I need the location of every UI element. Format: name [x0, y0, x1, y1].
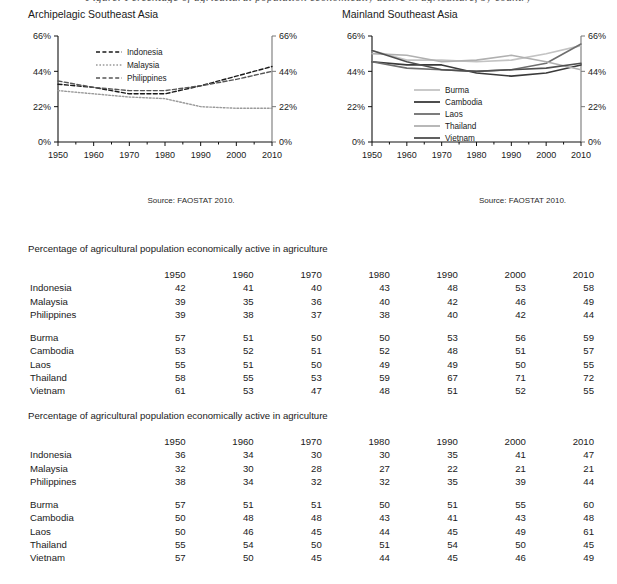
cell-burma-1980: 50 [336, 498, 404, 511]
cell-laos-1980: 49 [336, 358, 404, 371]
cell-indonesia-2010: 58 [540, 281, 608, 294]
cell-malaysia-2010: 49 [540, 295, 608, 308]
series-line-cambodia [372, 62, 581, 76]
x-tick-label-1980: 1980 [466, 150, 486, 160]
column-header-1990: 1990 [404, 268, 472, 281]
cell-laos-1990: 49 [404, 358, 472, 371]
cell-indonesia-1950: 42 [132, 281, 200, 294]
cell-laos-1950: 55 [132, 358, 200, 371]
table-row: Vietnam61534748515255 [28, 384, 608, 397]
column-header-2000: 2000 [472, 268, 540, 281]
column-header-2010: 2010 [540, 268, 608, 281]
table-row: Cambodia53525152485157 [28, 344, 608, 357]
cell-laos-2010: 61 [540, 525, 608, 538]
cell-vietnam-2010: 49 [540, 551, 608, 564]
cell-malaysia-2000: 46 [472, 295, 540, 308]
y-tick-label-right-0: 0% [588, 137, 601, 147]
running-head-text: Figure: Percentage of agricultural popul… [0, 0, 617, 3]
table-row: Malaysia39353640424649 [28, 295, 608, 308]
cell-cambodia-2010: 57 [540, 344, 608, 357]
page-running-head: Figure: Percentage of agricultural popul… [0, 0, 617, 3]
row-label-laos: Laos [28, 358, 132, 371]
cell-laos-1960: 46 [200, 525, 268, 538]
cell-vietnam-1970: 45 [268, 551, 336, 564]
table-corner-cell [28, 268, 132, 281]
cell-laos-1950: 50 [132, 525, 200, 538]
chart-title-archipelagic: Archipelagic Southeast Asia [28, 8, 308, 20]
table-header-row: 1950196019701980199020002010 [28, 435, 608, 448]
cell-vietnam-1990: 51 [404, 384, 472, 397]
cell-philippines-1990: 35 [404, 475, 472, 488]
cell-thailand-2000: 50 [472, 538, 540, 551]
cell-vietnam-2010: 55 [540, 384, 608, 397]
cell-malaysia-1960: 30 [200, 462, 268, 475]
table-row: Malaysia32302827222121 [28, 462, 608, 475]
cell-laos-1980: 44 [336, 525, 404, 538]
cell-philippines-1970: 37 [268, 308, 336, 321]
column-header-1970: 1970 [268, 268, 336, 281]
cell-thailand-1980: 51 [336, 538, 404, 551]
table-section-1: Percentage of agricultural population ec… [0, 243, 617, 398]
legend-label-malaysia: Malaysia [127, 61, 160, 70]
cell-indonesia-2010: 47 [540, 448, 608, 461]
cell-cambodia-1990: 48 [404, 344, 472, 357]
table-group-spacer [28, 321, 608, 331]
column-header-1960: 1960 [200, 435, 268, 448]
column-header-1960: 1960 [200, 268, 268, 281]
cell-laos-1960: 51 [200, 358, 268, 371]
table-caption-2: Percentage of agricultural population ec… [28, 410, 617, 421]
cell-philippines-2010: 44 [540, 475, 608, 488]
x-tick-label-1990: 1990 [191, 150, 211, 160]
y-tick-label-right-66: 66% [588, 31, 606, 41]
table-group-spacer [28, 488, 608, 498]
cell-philippines-1970: 32 [268, 475, 336, 488]
legend-label-philippines: Philippines [127, 74, 167, 83]
cell-burma-1970: 51 [268, 498, 336, 511]
table-row: Laos55515049495055 [28, 358, 608, 371]
cell-cambodia-1950: 53 [132, 344, 200, 357]
cell-malaysia-1990: 42 [404, 295, 472, 308]
cell-vietnam-1960: 53 [200, 384, 268, 397]
chart-source-archipelagic: Source: FAOSTAT 2010. [22, 196, 308, 205]
x-tick-label-1970: 1970 [119, 150, 139, 160]
y-tick-label-left-0: 0% [352, 137, 365, 147]
cell-vietnam-1980: 48 [336, 384, 404, 397]
cell-cambodia-1980: 52 [336, 344, 404, 357]
y-tick-label-left-22: 22% [33, 102, 51, 112]
cell-philippines-1980: 32 [336, 475, 404, 488]
column-header-1950: 1950 [132, 435, 200, 448]
cell-laos-1970: 50 [268, 358, 336, 371]
cell-indonesia-1970: 40 [268, 281, 336, 294]
cell-burma-1990: 53 [404, 331, 472, 344]
cell-thailand-1990: 54 [404, 538, 472, 551]
cell-thailand-1970: 50 [268, 538, 336, 551]
cell-philippines-1950: 38 [132, 475, 200, 488]
row-label-malaysia: Malaysia [28, 462, 132, 475]
x-tick-label-1970: 1970 [432, 150, 452, 160]
cell-vietnam-2000: 52 [472, 384, 540, 397]
chart-panel-mainland: Mainland Southeast Asia 0%0%22%22%44%44%… [336, 8, 617, 205]
column-header-2000: 2000 [472, 435, 540, 448]
cell-indonesia-1990: 48 [404, 281, 472, 294]
x-tick-label-1980: 1980 [155, 150, 175, 160]
table-section-2: Percentage of agricultural population ec… [0, 410, 617, 565]
x-tick-label-1950: 1950 [48, 150, 68, 160]
cell-laos-2000: 49 [472, 525, 540, 538]
cell-indonesia-1960: 41 [200, 281, 268, 294]
cell-burma-1970: 50 [268, 331, 336, 344]
row-label-burma: Burma [28, 498, 132, 511]
column-header-1980: 1980 [336, 268, 404, 281]
cell-philippines-2010: 44 [540, 308, 608, 321]
cell-cambodia-2000: 51 [472, 344, 540, 357]
table-corner-cell [28, 435, 132, 448]
cell-burma-1960: 51 [200, 498, 268, 511]
cell-cambodia-1960: 48 [200, 511, 268, 524]
table-header-row: 1950196019701980199020002010 [28, 268, 608, 281]
cell-burma-2010: 59 [540, 331, 608, 344]
cell-burma-2000: 55 [472, 498, 540, 511]
row-label-philippines: Philippines [28, 475, 132, 488]
series-line-malaysia [58, 91, 272, 109]
cell-thailand-1960: 54 [200, 538, 268, 551]
cell-cambodia-2010: 48 [540, 511, 608, 524]
legend-label-thailand: Thailand [445, 122, 477, 131]
